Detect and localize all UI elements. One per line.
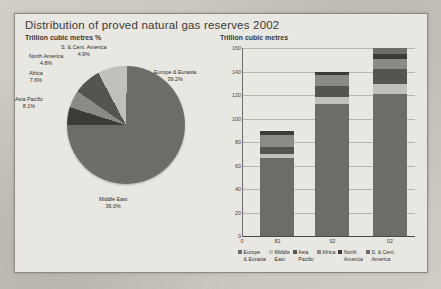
bar-segment [373, 94, 407, 236]
figure-title: Distribution of proved natural gas reser… [25, 19, 279, 31]
legend-label: Africa [322, 249, 335, 256]
bar-segment [315, 104, 349, 236]
pie-label-north-america-text: North America [29, 53, 63, 59]
y-axis-tick-label: 160 [232, 45, 241, 51]
pie-label-north-america-value: 4.8% [29, 60, 63, 67]
bar-segment [260, 147, 294, 154]
bar-segment [260, 135, 294, 147]
y-axis-tick-label: 40 [235, 186, 241, 192]
legend-swatch-icon [269, 250, 273, 254]
legend-item[interactable]: S. & Cent. America [366, 249, 395, 263]
legend-swatch-icon [338, 250, 342, 254]
y-axis-tick-label: 80 [235, 139, 241, 145]
legend-swatch-icon [317, 250, 321, 254]
x-axis-tick-label-82: 82 [274, 238, 280, 244]
bar-legend: Europe & EurasiaMiddle EastAsia PacificA… [238, 249, 428, 263]
legend-label: Europe & Eurasia [244, 249, 267, 263]
pie-label-s-cent-america-value: 4.9% [61, 51, 107, 58]
y-axis-tick-label: 60 [235, 163, 241, 169]
legend-swatch-icon [293, 250, 297, 254]
bar-column-92 [315, 72, 349, 236]
legend-label: Asia Pacific [298, 249, 313, 263]
legend-swatch-icon [366, 250, 370, 254]
y-axis-tick-label: 120 [232, 92, 241, 98]
pie-circle [67, 66, 185, 184]
legend-label: S. & Cent. America [371, 249, 395, 263]
bar-chart: 0204060801001201401608292020 Europe & Eu… [220, 44, 427, 272]
bar-plot-area: 0204060801001201401608292020 [242, 48, 415, 237]
bar-segment [315, 97, 349, 104]
bar-segment [373, 84, 407, 93]
pie-label-africa-text: Africa [29, 70, 43, 76]
bar-segment [315, 75, 349, 86]
legend-swatch-icon [238, 250, 242, 254]
pie-label-north-america: North America 4.8% [29, 53, 63, 67]
figure-frame: Distribution of proved natural gas reser… [14, 13, 428, 273]
pie-label-middle-east-value: 36.0% [99, 203, 127, 210]
y-axis-tick-label: 140 [232, 69, 241, 75]
x-axis-origin-label: 0 [241, 238, 244, 244]
pie-label-europe-eurasia: Europe & Eurasia 39.2% [154, 69, 196, 83]
bar-segment [373, 59, 407, 70]
pie-chart: S. & Cent. America 4.9% North America 4.… [15, 44, 220, 269]
pie-label-europe-eurasia-value: 39.2% [154, 76, 196, 83]
bar-segment [373, 69, 407, 84]
pie-label-asia-pacific-text: Asia Pacific [15, 96, 43, 102]
pie-label-asia-pacific-value: 8.1% [15, 103, 43, 110]
pie-label-europe-eurasia-text: Europe & Eurasia [154, 69, 196, 75]
legend-item[interactable]: Middle East [269, 249, 290, 263]
pie-label-asia-pacific: Asia Pacific 8.1% [15, 96, 43, 110]
bar-segment [315, 86, 349, 98]
legend-label: North America [344, 249, 363, 263]
pie-label-africa: Africa 7.6% [29, 70, 43, 84]
legend-item[interactable]: Europe & Eurasia [238, 249, 266, 263]
bar-column-02 [373, 48, 407, 236]
legend-label: Middle East [275, 249, 290, 263]
pie-label-s-cent-america: S. & Cent. America 4.9% [61, 44, 107, 58]
bar-column-82 [260, 131, 294, 236]
y-axis-tick-label: 20 [235, 210, 241, 216]
pie-label-middle-east: Middle East 36.0% [99, 196, 127, 210]
legend-item[interactable]: Africa [317, 249, 336, 256]
pie-subtitle: Trillion cubic metres % [25, 34, 101, 41]
pie-label-middle-east-text: Middle East [99, 196, 127, 202]
bar-segment [260, 158, 294, 236]
x-axis-tick-label-92: 92 [329, 238, 335, 244]
bar-subtitle: Trillion cubic metres [220, 34, 288, 41]
pie-label-africa-value: 7.6% [29, 77, 43, 84]
legend-item[interactable]: North America [338, 249, 363, 263]
legend-item[interactable]: Asia Pacific [293, 249, 314, 263]
x-axis-tick-label-02: 02 [387, 238, 393, 244]
y-axis-tick-label: 100 [232, 116, 241, 122]
pie-label-s-cent-america-text: S. & Cent. America [61, 44, 107, 50]
